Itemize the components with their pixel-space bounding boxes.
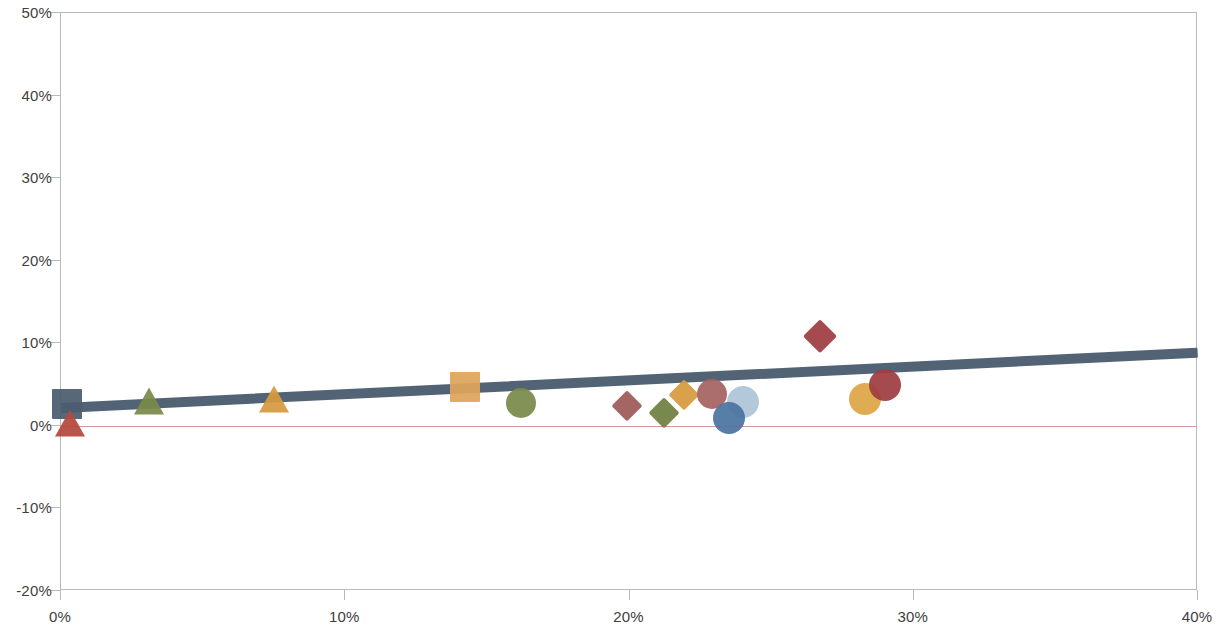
x-axis-tick xyxy=(60,590,61,600)
data-point-square xyxy=(450,372,480,402)
y-axis-tick-label: 0% xyxy=(4,416,52,433)
y-axis-tick-label: 20% xyxy=(4,251,52,268)
x-axis-tick-label: 10% xyxy=(329,608,360,625)
data-point-diamond xyxy=(648,398,679,429)
y-axis-tick-label: 50% xyxy=(4,4,52,21)
plot-area xyxy=(60,12,1197,590)
x-axis-tick xyxy=(1197,590,1198,600)
y-axis-tick-label: -10% xyxy=(4,499,52,516)
y-axis-tick-label: 10% xyxy=(4,334,52,351)
x-axis-tick xyxy=(344,590,345,600)
y-axis-tick-label: 30% xyxy=(4,169,52,186)
data-point-circle xyxy=(713,402,745,434)
data-point-diamond xyxy=(611,390,642,421)
y-axis-tick-label: 40% xyxy=(4,86,52,103)
x-axis-tick-label: 30% xyxy=(897,608,928,625)
x-axis-tick-label: 20% xyxy=(613,608,644,625)
triangle-glyph xyxy=(259,386,289,413)
x-axis-tick-label: 40% xyxy=(1182,608,1213,625)
x-axis-tick xyxy=(913,590,914,600)
y-axis-tick-label: -20% xyxy=(4,582,52,599)
scatter-chart: 50%40%30%20%10%0%-10%-20% 0%10%20%30%40% xyxy=(0,0,1218,628)
x-axis-tick xyxy=(629,590,630,600)
x-axis-tick-label: 0% xyxy=(49,608,71,625)
data-point-circle xyxy=(869,369,901,401)
data-point-diamond xyxy=(803,319,836,352)
zero-reference-line xyxy=(61,426,1196,427)
data-point-circle xyxy=(506,388,536,418)
triangle-glyph xyxy=(55,410,85,437)
triangle-glyph xyxy=(134,387,164,414)
